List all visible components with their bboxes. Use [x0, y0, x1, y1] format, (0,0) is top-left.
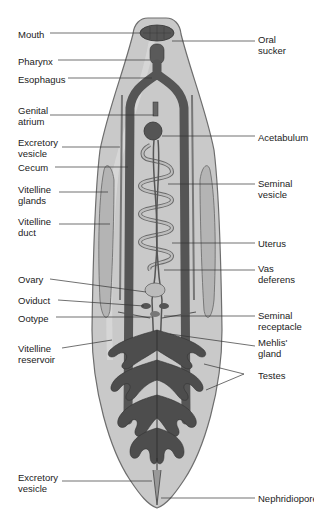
- label-vitelline-reservoir: Vitelline reservoir: [18, 343, 55, 365]
- label-esophagus: Esophagus: [18, 74, 66, 85]
- label-seminal-vesicle: Seminal vesicle: [258, 178, 292, 200]
- label-ootype: Ootype: [18, 313, 49, 324]
- label-pharynx: Pharynx: [18, 56, 53, 67]
- label-mouth: Mouth: [18, 29, 44, 40]
- label-nephridiopore: Nephridiopore: [258, 493, 314, 504]
- label-oviduct: Oviduct: [18, 295, 50, 306]
- label-excretory-vesicle-top: Excretory vesicle: [18, 137, 58, 159]
- label-acetabulum: Acetabulum: [258, 132, 308, 143]
- ovary: [145, 283, 165, 297]
- label-mehlis-gland: Mehlis' gland: [258, 337, 287, 359]
- acetabulum: [144, 122, 162, 140]
- label-vitelline-duct: Vitelline duct: [18, 216, 51, 238]
- label-oral-sucker: Oral sucker: [258, 34, 286, 56]
- label-vas-deferens: Vas deferens: [258, 263, 295, 285]
- label-vitelline-glands: Vitelline glands: [18, 184, 51, 206]
- label-genital-atrium: Genital atrium: [18, 105, 48, 127]
- label-seminal-receptacle: Seminal receptacle: [258, 310, 302, 332]
- label-cecum: Cecum: [18, 162, 48, 173]
- label-excretory-vesicle-bottom: Excretory vesicle: [18, 472, 58, 494]
- label-ovary: Ovary: [18, 274, 43, 285]
- label-testes: Testes: [258, 370, 285, 381]
- label-uterus: Uterus: [258, 238, 286, 249]
